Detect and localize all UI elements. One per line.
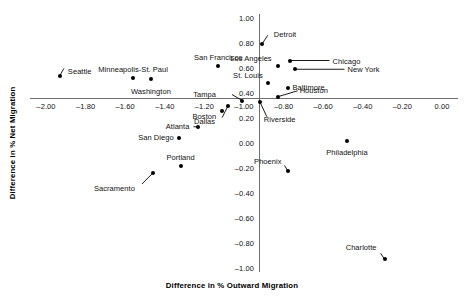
data-point-label: Portland bbox=[166, 153, 194, 162]
x-tick-label: –1.40 bbox=[155, 102, 174, 111]
data-point[interactable] bbox=[149, 77, 153, 81]
x-axis-title: Difference in % Outward Migration bbox=[166, 281, 298, 290]
data-point-label: San Diego bbox=[138, 133, 173, 142]
data-point[interactable] bbox=[345, 139, 349, 143]
data-point[interactable] bbox=[258, 100, 262, 104]
data-point-label: Sacramento bbox=[94, 184, 135, 193]
data-point[interactable] bbox=[220, 109, 224, 113]
x-tick-label: –0.80 bbox=[274, 102, 293, 111]
y-tick-label: 0.00 bbox=[222, 139, 254, 148]
y-tick-label: –0.60 bbox=[222, 214, 254, 223]
data-point[interactable] bbox=[260, 42, 264, 46]
x-tick-label: –1.20 bbox=[195, 102, 214, 111]
data-point[interactable] bbox=[266, 81, 270, 85]
y-tick-label: –0.80 bbox=[222, 239, 254, 248]
data-point-label: Charlotte bbox=[346, 243, 377, 252]
data-point[interactable] bbox=[286, 86, 290, 90]
data-point-label: Phoenix bbox=[254, 157, 281, 166]
y-tick-label: 0.20 bbox=[222, 114, 254, 123]
data-point[interactable] bbox=[151, 171, 155, 175]
x-tick-label: –1.00 bbox=[234, 102, 253, 111]
x-tick-label: –0.60 bbox=[314, 102, 333, 111]
y-tick-label: –0.20 bbox=[222, 164, 254, 173]
data-point[interactable] bbox=[226, 104, 230, 108]
data-point[interactable] bbox=[177, 136, 181, 140]
data-point-label: Seattle bbox=[68, 67, 92, 76]
y-tick-label: 0.40 bbox=[222, 89, 254, 98]
data-point[interactable] bbox=[240, 99, 244, 103]
data-point-label: Houston bbox=[300, 86, 328, 95]
data-point[interactable] bbox=[216, 64, 220, 68]
y-tick-label: 0.80 bbox=[222, 39, 254, 48]
data-point-label: Washington bbox=[131, 87, 171, 96]
data-point-label: Dallas bbox=[194, 117, 215, 126]
x-tick-label: –1.80 bbox=[76, 102, 95, 111]
data-point-label: Chicago bbox=[333, 57, 361, 66]
x-axis-line bbox=[30, 98, 458, 99]
y-tick-label: 1.00 bbox=[222, 14, 254, 23]
y-tick-label: –0.40 bbox=[222, 189, 254, 198]
data-point-label: Riverside bbox=[264, 115, 296, 124]
data-point[interactable] bbox=[179, 164, 183, 168]
data-point-label: Minneapolis-St. Paul bbox=[98, 65, 168, 74]
data-point-label: St. Louis bbox=[233, 71, 263, 80]
data-point-label: Tampa bbox=[193, 90, 216, 99]
data-point[interactable] bbox=[293, 67, 297, 71]
y-tick-label: –1.00 bbox=[222, 264, 254, 273]
x-tick-label: –1.60 bbox=[116, 102, 135, 111]
data-point-label: New York bbox=[347, 65, 379, 74]
data-point[interactable] bbox=[58, 74, 62, 78]
scatter-plot-figure: –2.00–1.80–1.60–1.40–1.20–1.00–0.80–0.60… bbox=[0, 0, 465, 297]
data-point[interactable] bbox=[286, 169, 290, 173]
data-point[interactable] bbox=[276, 95, 280, 99]
data-point-label: Los Angeles bbox=[230, 54, 271, 63]
data-point[interactable] bbox=[131, 76, 135, 80]
plot-area: –2.00–1.80–1.60–1.40–1.20–1.00–0.80–0.60… bbox=[0, 0, 465, 297]
y-axis-title: Difference in % Net Migration bbox=[8, 87, 17, 200]
x-tick-label: –0.20 bbox=[393, 102, 412, 111]
data-point[interactable] bbox=[288, 59, 292, 63]
x-tick-label: –2.00 bbox=[36, 102, 55, 111]
data-point-label: Detroit bbox=[274, 30, 296, 39]
data-point-label: Atlanta bbox=[166, 122, 190, 131]
x-tick-label: 0.00 bbox=[435, 102, 450, 111]
data-point-label: Philadelphia bbox=[326, 148, 367, 157]
data-point[interactable] bbox=[383, 257, 387, 261]
data-point[interactable] bbox=[276, 64, 280, 68]
x-tick-label: –0.40 bbox=[353, 102, 372, 111]
